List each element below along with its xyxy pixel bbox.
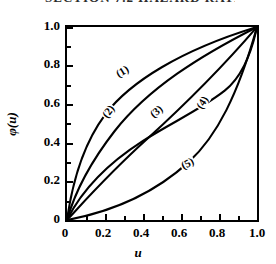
x-tick-0.9 (238, 216, 240, 220)
x-ticklabel-0.6: 0.6 (163, 226, 195, 239)
y-tick-0.5 (67, 123, 71, 125)
x-tick-0 (67, 214, 69, 220)
curve-layer (67, 27, 257, 220)
x-tick-0.4 (143, 214, 145, 220)
x-tick-0.7 (200, 216, 202, 220)
y-ticklabel-0.2: 0.2 (0, 173, 60, 186)
x-axis-title: u (0, 245, 276, 261)
clipped-page-header-text: SECTION 7.2 HAZARD RATE ORDERING (45, 0, 235, 4)
y-ticklabel-0.8: 0.8 (0, 57, 60, 70)
plot-area: (1) (2) (3) (4) (5) (65, 25, 259, 222)
y-axis-title: φ(u) (4, 96, 20, 152)
x-tick-0.5 (162, 216, 164, 220)
x-tick-0.8 (219, 214, 221, 220)
y-tick-0.2 (67, 181, 73, 183)
x-ticklabel-1.0: 1.0 (241, 226, 273, 239)
curve-3 (67, 27, 257, 220)
figure-container: SECTION 7.2 HAZARD RATE ORDERING (1) (2)… (0, 0, 276, 264)
y-tick-0.7 (67, 85, 71, 87)
y-tick-0.4 (67, 143, 73, 145)
x-ticklabel-0.4: 0.4 (125, 226, 157, 239)
y-ticklabel-0: 0 (0, 212, 60, 225)
y-tick-0.9 (67, 46, 71, 48)
clipped-page-header: SECTION 7.2 HAZARD RATE ORDERING (45, 0, 235, 5)
y-tick-1.0 (67, 27, 73, 29)
y-tick-0.3 (67, 162, 71, 164)
y-tick-0.8 (67, 65, 73, 67)
x-tick-0.3 (124, 216, 126, 220)
x-ticklabel-0: 0 (49, 226, 81, 239)
x-tick-0.1 (86, 216, 88, 220)
x-tick-0.2 (105, 214, 107, 220)
x-tick-0.6 (181, 214, 183, 220)
y-tick-0.6 (67, 104, 73, 106)
x-ticklabel-0.2: 0.2 (87, 226, 119, 239)
y-tick-0.1 (67, 201, 71, 203)
x-ticklabel-0.8: 0.8 (201, 226, 233, 239)
y-ticklabel-1.0: 1.0 (0, 19, 60, 32)
